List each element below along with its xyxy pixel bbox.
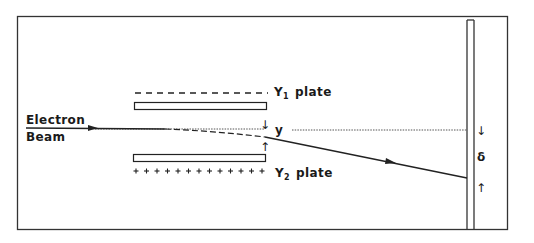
- beam-label: Beam: [26, 130, 66, 144]
- electron-path-between-plates: [165, 129, 265, 137]
- beam-arrow-head-incoming: [88, 125, 98, 131]
- y2-plate-label: Y2plate: [274, 166, 333, 182]
- y-deflection-label: y: [275, 123, 283, 137]
- electron-label: Electron: [26, 113, 85, 127]
- beam-arrow-head-deflected: [385, 158, 396, 164]
- y1-plate: [135, 103, 267, 110]
- y-down-arrow: ↓: [260, 118, 270, 132]
- delta-label: δ: [477, 150, 486, 164]
- delta-down-arrow: ↓: [476, 124, 486, 138]
- delta-up-arrow: ↑: [476, 181, 486, 195]
- y-up-arrow: ↑: [260, 140, 270, 154]
- y2-positive-charges: [134, 169, 265, 174]
- y1-plate-label: Y1plate: [273, 85, 332, 101]
- y2-plate: [134, 155, 266, 162]
- crt-deflection-diagram: ↓ ↑ y ↓ δ ↑ Electron Beam Y1plate Y2plat…: [0, 0, 534, 243]
